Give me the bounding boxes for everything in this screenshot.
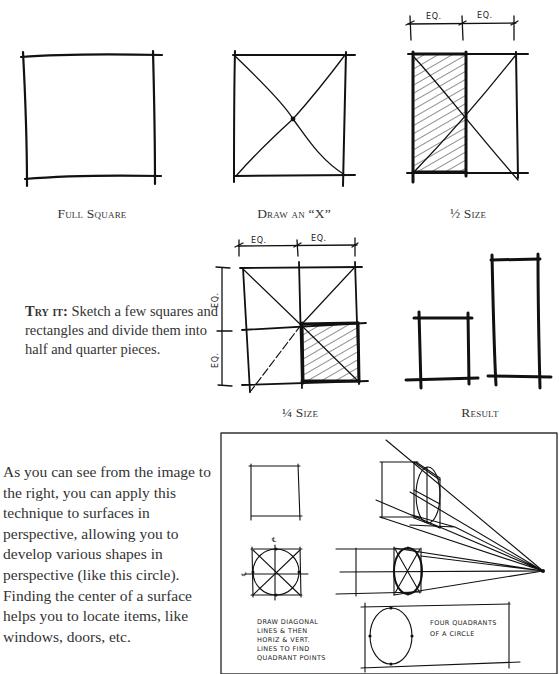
half-size-sketch: EQ. EQ. bbox=[406, 11, 528, 182]
svg-text:℄: ℄ bbox=[240, 571, 248, 577]
caption-quarter-size: ¼ Size bbox=[260, 405, 340, 421]
full-square-sketch bbox=[21, 51, 162, 186]
svg-text:EQ.: EQ. bbox=[311, 234, 327, 243]
svg-text:LINES & THEN: LINES & THEN bbox=[257, 627, 307, 635]
svg-text:HORIZ & VERT.: HORIZ & VERT. bbox=[257, 636, 310, 644]
caption-full-square: Full Square bbox=[32, 206, 152, 222]
try-it-label: Try it: bbox=[25, 303, 68, 319]
caption-draw-x: Draw an “X” bbox=[234, 206, 354, 222]
result-sketch bbox=[406, 254, 551, 388]
svg-text:OF A CIRCLE: OF A CIRCLE bbox=[430, 630, 475, 638]
svg-text:EQ.: EQ. bbox=[251, 236, 267, 245]
perspective-figure: ℄ ℄ DRAW DIAGONAL LINES & THEN HORIZ & V… bbox=[221, 433, 557, 674]
svg-text:℄: ℄ bbox=[271, 536, 277, 544]
draw-x-sketch bbox=[233, 51, 355, 186]
svg-text:QUADRANT POINTS: QUADRANT POINTS bbox=[257, 654, 326, 662]
try-it-callout: Try it: Sketch a few squares and rectang… bbox=[25, 302, 225, 359]
svg-text:LINES TO FIND: LINES TO FIND bbox=[257, 645, 310, 653]
caption-half-size: ½ Size bbox=[428, 206, 508, 222]
svg-text:FOUR QUADRANTS: FOUR QUADRANTS bbox=[430, 619, 497, 627]
svg-text:EQ.: EQ. bbox=[477, 11, 493, 20]
body-paragraph: As you can see from the image to the rig… bbox=[3, 462, 218, 647]
quarter-size-sketch: EQ. EQ. EQ. EQ. bbox=[211, 234, 368, 392]
svg-text:DRAW DIAGONAL: DRAW DIAGONAL bbox=[257, 618, 318, 626]
caption-result: Result bbox=[440, 405, 520, 421]
svg-text:EQ.: EQ. bbox=[426, 12, 442, 21]
